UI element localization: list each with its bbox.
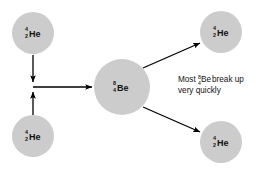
symbol-helium-bottom-left: He	[29, 132, 41, 142]
symbol-beryllium-center: Be	[117, 83, 129, 93]
symbol-helium-top-left: He	[29, 29, 41, 39]
mass-number-helium-bottom-left: 4	[25, 129, 28, 135]
mass-number-helium-bottom-right: 4	[213, 135, 216, 141]
arrow-downright-to-helium	[143, 107, 200, 132]
atomic-number-helium-top-left: 2	[25, 33, 28, 39]
annotation-line1-symbol: Be	[201, 75, 211, 84]
nuclear-reaction-diagram: 4 2 He 4 2 He 8 4 Be 4 2 He 4 2 He	[0, 0, 260, 170]
atomic-number-helium-bottom-left: 2	[25, 136, 28, 142]
breakup-annotation: Most 8 4 Be break up very quickly	[178, 74, 244, 95]
annotation-line1-suffix: break up	[212, 75, 244, 84]
symbol-helium-top-right: He	[217, 28, 229, 38]
arrow-upright-to-helium	[143, 43, 200, 68]
annotation-line1-prefix: Most	[178, 75, 196, 84]
atomic-number-helium-bottom-right: 2	[213, 142, 216, 148]
atomic-number-beryllium-center: 4	[113, 87, 116, 93]
mass-number-helium-top-left: 4	[25, 26, 28, 32]
diagram-canvas: 4 2 He 4 2 He 8 4 Be 4 2 He 4 2 He	[0, 0, 260, 170]
mass-number-beryllium-center: 8	[113, 80, 116, 86]
symbol-helium-bottom-right: He	[217, 138, 229, 148]
mass-number-helium-top-right: 4	[213, 25, 216, 31]
annotation-line2: very quickly	[178, 86, 222, 95]
atomic-number-helium-top-right: 2	[213, 32, 216, 38]
